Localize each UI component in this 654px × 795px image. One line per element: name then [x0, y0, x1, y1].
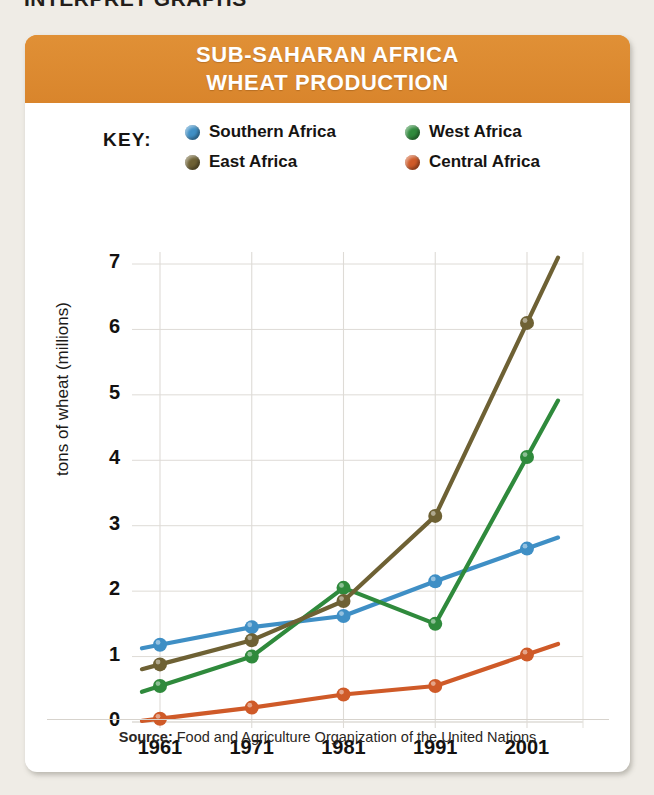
y-tick-label: 2 — [94, 577, 120, 600]
data-point — [428, 574, 442, 588]
data-point — [153, 657, 167, 671]
legend-item-east-africa[interactable]: East Africa — [185, 152, 405, 172]
series-east-africa — [142, 258, 558, 672]
y-tick-label: 1 — [94, 643, 120, 666]
data-point — [245, 620, 259, 634]
source-prefix: Source: — [119, 729, 173, 745]
chart-title-line-1: SUB-SAHARAN AFRICA — [196, 41, 459, 69]
y-axis-label: tons of wheat (millions) — [53, 259, 73, 519]
chart-card: SUB-SAHARAN AFRICA WHEAT PRODUCTION KEY:… — [25, 35, 630, 772]
chart-card-header: SUB-SAHARAN AFRICA WHEAT PRODUCTION — [25, 35, 630, 103]
data-point — [245, 650, 259, 664]
data-point — [428, 679, 442, 693]
data-point — [520, 648, 534, 662]
legend-item-label: East Africa — [209, 152, 297, 172]
legend-item-central-africa[interactable]: Central Africa — [405, 152, 605, 172]
legend-item-label: Central Africa — [429, 152, 540, 172]
data-point — [337, 688, 351, 702]
data-point — [337, 581, 351, 595]
source-divider — [47, 719, 609, 720]
data-point — [520, 316, 534, 330]
legend-item-southern-africa[interactable]: Southern Africa — [185, 122, 405, 142]
chart-title-line-2: WHEAT PRODUCTION — [206, 69, 449, 97]
source-text: Food and Agriculture Organization of the… — [173, 729, 537, 745]
data-point — [245, 701, 259, 715]
y-tick-label: 6 — [94, 315, 120, 338]
legend-marker-icon — [185, 125, 200, 140]
data-point — [520, 542, 534, 556]
legend-item-label: West Africa — [429, 122, 522, 142]
legend-marker-icon — [405, 155, 420, 170]
chart-source: Source: Food and Agriculture Organizatio… — [25, 729, 630, 745]
data-point — [245, 633, 259, 647]
y-tick-label: 7 — [94, 250, 120, 273]
chart-legend: KEY: Southern Africa West Africa East Af… — [25, 103, 630, 183]
legend-marker-icon — [405, 125, 420, 140]
data-point — [153, 679, 167, 693]
data-point — [337, 594, 351, 608]
line-chart: tons of wheat (millions) 01234567 196119… — [25, 183, 630, 728]
legend-item-label: Southern Africa — [209, 122, 336, 142]
data-point — [428, 509, 442, 523]
legend-item-west-africa[interactable]: West Africa — [405, 122, 605, 142]
legend-key-label: KEY: — [103, 129, 152, 151]
data-point — [520, 450, 534, 464]
y-tick-label: 4 — [94, 446, 120, 469]
legend-marker-icon — [185, 155, 200, 170]
page-section-heading: INTERPRET GRAPHS — [24, 0, 247, 11]
y-tick-label: 5 — [94, 381, 120, 404]
series-west-africa — [142, 401, 558, 693]
data-point — [337, 609, 351, 623]
data-point — [153, 638, 167, 652]
y-tick-label: 3 — [94, 512, 120, 535]
data-point — [428, 617, 442, 631]
legend-items: Southern Africa West Africa East Africa … — [185, 117, 605, 177]
